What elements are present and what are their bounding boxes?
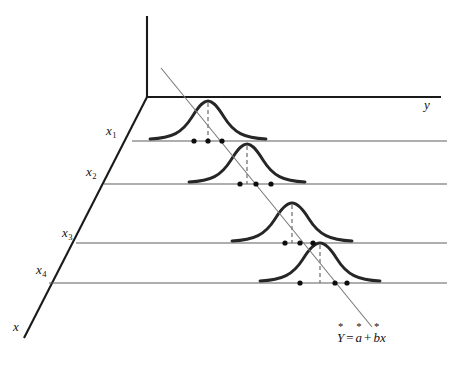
observation-dot <box>344 280 349 285</box>
equation-predictor: x <box>380 330 386 345</box>
x-axis-label: x <box>13 320 19 333</box>
regression-distribution-figure: y x x1 x2 x3 x4 *Y=*a+*bx <box>0 0 453 366</box>
regression-equation: *Y=*a+*bx <box>337 330 386 346</box>
equation-plus: + <box>362 330 373 345</box>
x-axis <box>24 97 147 338</box>
level-label-x1-subscript: 1 <box>112 130 117 140</box>
level-lines-group <box>49 141 447 283</box>
level-label-x2-base: x <box>86 164 92 179</box>
level-label-x4-subscript: 4 <box>42 269 47 279</box>
observation-dot <box>297 240 302 245</box>
equation-response: *Y <box>337 330 344 346</box>
level-label-x4: x4 <box>36 263 46 278</box>
observation-dot <box>237 181 242 186</box>
bell-curves-group <box>150 101 380 281</box>
observation-dot <box>205 138 210 143</box>
slope-star-icon: * <box>374 322 379 333</box>
level-label-x3-subscript: 3 <box>68 232 73 242</box>
observation-dots-group <box>191 138 349 285</box>
observation-dot <box>282 240 287 245</box>
level-label-x4-base: x <box>36 262 42 277</box>
observation-dot <box>253 181 258 186</box>
response-star-icon: * <box>338 322 343 333</box>
level-label-x2-subscript: 2 <box>92 171 97 181</box>
level-label-x1-base: x <box>106 123 112 138</box>
level-label-x1: x1 <box>106 124 116 139</box>
regression-line <box>161 68 372 327</box>
intercept-star-icon: * <box>356 322 361 333</box>
observation-dot <box>297 280 302 285</box>
equation-slope: *b <box>373 330 380 346</box>
observation-dot <box>219 138 224 143</box>
figure-canvas <box>0 0 453 366</box>
observation-dot <box>191 138 196 143</box>
y-axis-label: y <box>424 98 430 111</box>
level-label-x2: x2 <box>86 165 96 180</box>
observation-dot <box>268 181 273 186</box>
observation-dot <box>332 280 337 285</box>
level-label-x3: x3 <box>62 226 72 241</box>
level-label-x3-base: x <box>62 225 68 240</box>
equation-equals: = <box>344 330 355 345</box>
equation-intercept: *a <box>356 330 363 346</box>
observation-dot <box>310 240 315 245</box>
